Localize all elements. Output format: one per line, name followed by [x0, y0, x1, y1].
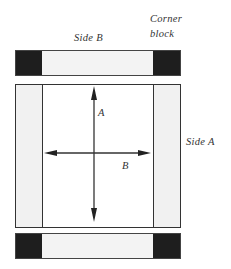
dimension-arrows — [0, 0, 231, 269]
arrow-a-icon — [91, 86, 97, 222]
label-arrow-a: A — [98, 107, 105, 119]
arrow-b-icon — [44, 150, 151, 156]
label-arrow-b: B — [122, 160, 129, 172]
